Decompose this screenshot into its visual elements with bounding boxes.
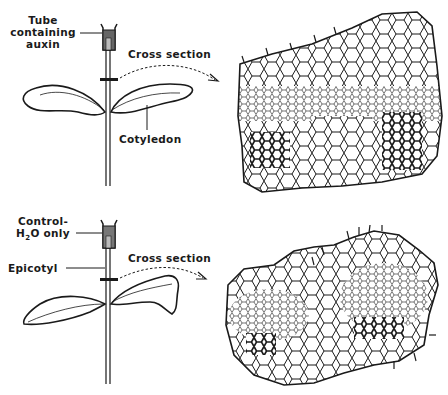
h2o-h: H xyxy=(16,227,25,239)
cotyledon-label: Cotyledon xyxy=(119,133,181,145)
cross-section-label-bottom: Cross section xyxy=(128,252,211,264)
control-tube-icon xyxy=(101,220,117,248)
cross-section-label-top: Cross section xyxy=(128,48,211,60)
auxin-tube-icon xyxy=(101,24,117,50)
h2o-suffix: O only xyxy=(30,227,70,239)
auxin-cross-section-drawing xyxy=(232,6,444,196)
control-label-line2: H2O only xyxy=(10,227,76,244)
tube-label-line1: Tube xyxy=(6,14,80,26)
epicotyl-label: Epicotyl xyxy=(8,262,58,274)
diagram-canvas: Tube containing auxin Cross section Coty… xyxy=(0,0,448,395)
control-cross-section-drawing xyxy=(224,225,446,390)
tube-auxin-label: Tube containing auxin xyxy=(6,14,80,50)
tube-label-line3: auxin xyxy=(6,38,80,50)
control-h2o-label: Control- H2O only xyxy=(10,215,76,244)
tube-label-line2: containing xyxy=(6,26,80,38)
control-label-line1: Control- xyxy=(10,215,76,227)
